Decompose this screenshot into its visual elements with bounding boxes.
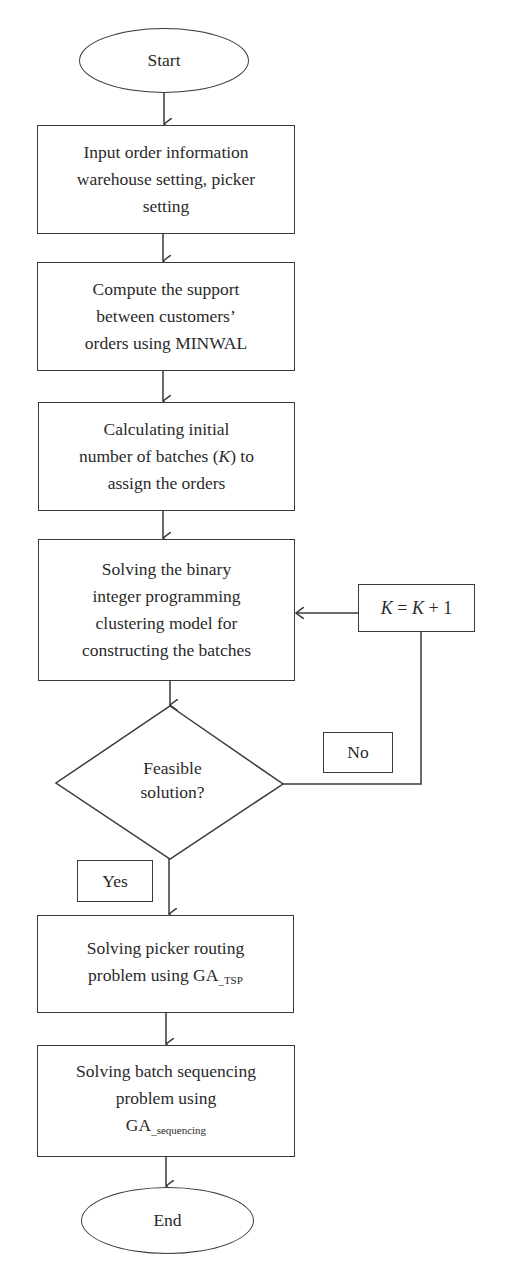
- increment-expression: K = K + 1: [381, 595, 452, 622]
- start-label: Start: [147, 47, 180, 74]
- end-label: End: [153, 1207, 181, 1234]
- initial-batches-step: Calculating initial number of batches (K…: [38, 402, 295, 511]
- step-text-line: Solving picker routing: [87, 935, 244, 962]
- step-text-line: integer programming: [82, 583, 251, 610]
- step-text-line: number of batches (K) to: [79, 443, 254, 470]
- text-segment: ) to: [230, 446, 254, 466]
- start-terminal: Start: [79, 28, 249, 93]
- step-text-line: orders using MINWAL: [85, 330, 247, 357]
- variable-k: K: [412, 598, 424, 618]
- step-text-line: problem using GA_TSP: [87, 962, 244, 994]
- step-text-line: warehouse setting, picker: [77, 166, 255, 193]
- step-text-line: assign the orders: [79, 470, 254, 497]
- no-branch-label: No: [323, 732, 393, 773]
- step-text-line: Input order information: [77, 139, 255, 166]
- variable-k: K: [381, 598, 393, 618]
- step-text-line: Compute the support: [85, 276, 247, 303]
- step-text-line: GA_sequencing: [76, 1112, 256, 1144]
- step-text-line: between customers’: [85, 303, 247, 330]
- input-settings-step: Input order information warehouse settin…: [37, 125, 295, 234]
- step-text-line: Solving batch sequencing: [76, 1058, 256, 1085]
- text-segment: + 1: [424, 598, 452, 618]
- end-terminal: End: [81, 1187, 254, 1254]
- yes-branch-label: Yes: [77, 860, 153, 902]
- variable-k: K: [218, 446, 230, 466]
- compute-support-step: Compute the support between customers’ o…: [37, 262, 295, 371]
- feasibility-decision: Feasible solution?: [100, 756, 245, 804]
- clustering-model-step: Solving the binary integer programming c…: [38, 539, 295, 681]
- increment-k-step: K = K + 1: [358, 584, 475, 632]
- step-text-line: setting: [77, 193, 255, 220]
- decision-text-line: Feasible: [100, 756, 245, 780]
- step-text-line: clustering model for: [82, 610, 251, 637]
- step-text-line: Solving the binary: [82, 556, 251, 583]
- no-text: No: [347, 742, 368, 763]
- step-text-line: Calculating initial: [79, 416, 254, 443]
- text-segment: number of batches (: [79, 446, 218, 466]
- text-segment: problem using GA: [88, 965, 218, 985]
- decision-text-line: solution?: [100, 780, 245, 804]
- text-segment: GA: [126, 1115, 151, 1135]
- step-text-line: constructing the batches: [82, 637, 251, 664]
- subscript: _TSP: [218, 974, 242, 986]
- step-text-line: problem using: [76, 1085, 256, 1112]
- yes-text: Yes: [102, 871, 127, 892]
- picker-routing-step: Solving picker routing problem using GA_…: [37, 915, 294, 1013]
- text-segment: =: [393, 598, 412, 618]
- subscript: _sequencing: [151, 1124, 206, 1136]
- batch-sequencing-step: Solving batch sequencing problem using G…: [37, 1045, 295, 1157]
